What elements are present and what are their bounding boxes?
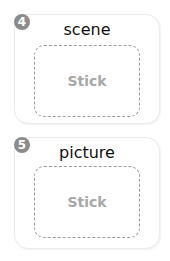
sticker-card-5: 5 picture Stick: [14, 137, 160, 249]
stick-placeholder: Stick: [67, 194, 106, 210]
sticker-card-4: 4 scene Stick: [14, 14, 160, 124]
sticker-drop-zone[interactable]: Stick: [34, 166, 140, 238]
word-label: picture: [15, 143, 159, 162]
word-label: scene: [15, 20, 159, 39]
sticker-drop-zone[interactable]: Stick: [34, 45, 140, 117]
stick-placeholder: Stick: [67, 73, 106, 89]
